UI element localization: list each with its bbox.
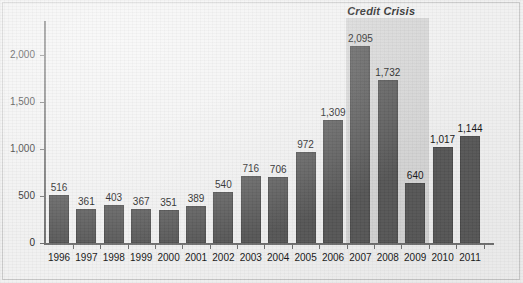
- bar: [213, 192, 233, 243]
- bar: [323, 120, 343, 243]
- x-axis-tick: [210, 245, 211, 249]
- y-axis-tick-label: 1,500: [0, 96, 35, 107]
- bar: [76, 209, 96, 243]
- plot-area: Credit Crisis05001,0001,5002,00051619963…: [0, 0, 523, 283]
- y-axis-tick: [40, 196, 45, 197]
- x-axis-tick-label: 2011: [450, 252, 490, 263]
- x-axis-tick: [128, 245, 129, 249]
- bar-value-label: 1,309: [313, 107, 353, 118]
- bar: [405, 183, 425, 243]
- bar: [131, 209, 151, 243]
- x-axis-tick: [484, 245, 485, 249]
- bar-chart-figure: Credit Crisis05001,0001,5002,00051619963…: [0, 0, 523, 283]
- y-axis-tick: [40, 55, 45, 56]
- y-axis-tick: [40, 149, 45, 150]
- y-axis-tick: [40, 102, 45, 103]
- bar-value-label: 2,095: [340, 33, 380, 44]
- bar-value-label: 516: [39, 182, 79, 193]
- bar: [460, 136, 480, 243]
- bar-value-label: 972: [286, 139, 326, 150]
- y-axis-tick: [40, 243, 45, 244]
- x-axis-tick: [182, 245, 183, 249]
- x-axis-tick: [100, 245, 101, 249]
- bar-value-label: 389: [176, 193, 216, 204]
- x-axis-line: [44, 243, 494, 245]
- bar: [296, 152, 316, 243]
- y-axis-tick-label: 0: [0, 237, 35, 248]
- x-axis-tick: [292, 245, 293, 249]
- y-axis-tick-label: 1,000: [0, 143, 35, 154]
- bar-value-label: 640: [395, 170, 435, 181]
- bar-value-label: 706: [258, 164, 298, 175]
- bar: [433, 147, 453, 243]
- y-axis-tick-label: 500: [0, 190, 35, 201]
- bar-value-label: 540: [203, 179, 243, 190]
- bar: [159, 210, 179, 243]
- x-axis-tick: [73, 245, 74, 249]
- x-axis-tick: [264, 245, 265, 249]
- credit-crisis-annotation-label: Credit Crisis: [347, 5, 415, 17]
- x-axis-tick: [374, 245, 375, 249]
- x-axis-tick: [429, 245, 430, 249]
- y-axis-tick-label: 2,000: [0, 49, 35, 60]
- x-axis-tick: [401, 245, 402, 249]
- x-axis-tick: [237, 245, 238, 249]
- bar-value-label: 1,017: [423, 134, 463, 145]
- bar: [268, 177, 288, 243]
- x-axis-tick: [347, 245, 348, 249]
- x-axis-tick: [319, 245, 320, 249]
- bar: [104, 205, 124, 243]
- bar: [241, 176, 261, 243]
- x-axis-tick: [456, 245, 457, 249]
- bar-value-label: 1,144: [450, 123, 490, 134]
- x-axis-tick: [155, 245, 156, 249]
- bar: [186, 206, 206, 243]
- bar: [378, 80, 398, 243]
- bar-value-label: 1,732: [368, 67, 408, 78]
